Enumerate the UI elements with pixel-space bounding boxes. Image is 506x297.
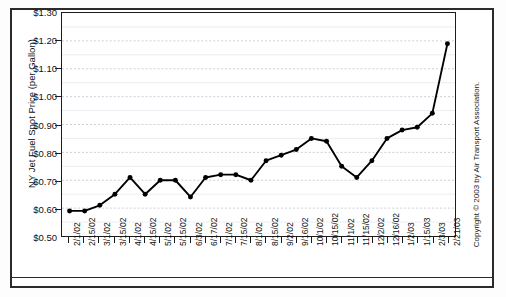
y-axis-tick (55, 153, 61, 154)
x-axis-label: 12/2/02 (376, 218, 386, 246)
x-axis-tick (387, 237, 388, 243)
y-axis-label: $1.00 (33, 91, 57, 102)
y-axis-tick (55, 181, 61, 182)
x-axis-label: 3/1/02 (102, 222, 112, 246)
x-axis-tick (129, 237, 130, 243)
x-axis-tick (357, 237, 358, 243)
y-axis-label: $0.60 (33, 203, 57, 214)
x-axis-label: 2/21/03 (452, 218, 462, 246)
x-axis-tick (448, 237, 449, 243)
plot-area (61, 12, 456, 237)
y-axis-label: $0.80 (33, 147, 57, 158)
jet-fuel-price-figure: NY Jet Fuel Spot Price (per Gallon) Copy… (0, 0, 506, 297)
x-axis-label: 7/1/02 (224, 222, 234, 246)
x-axis-label: 6/17/02 (209, 218, 219, 246)
x-axis-label: 3/15/02 (118, 218, 128, 246)
x-axis-label: 4/1/02 (133, 222, 143, 246)
x-axis-tick (83, 237, 84, 243)
x-axis-tick (235, 237, 236, 243)
x-axis-tick (205, 237, 206, 243)
x-axis-tick (68, 237, 69, 243)
y-axis-label: $0.90 (33, 119, 57, 130)
x-axis-tick (433, 237, 434, 243)
x-axis-label: 2/1/02 (72, 222, 82, 246)
x-axis-label: 12/16/02 (391, 213, 401, 246)
x-axis-tick (220, 237, 221, 243)
x-axis-tick (174, 237, 175, 243)
x-axis-tick (265, 237, 266, 243)
x-axis-label: 5/15/02 (178, 218, 188, 246)
x-axis-label: 8/1/02 (254, 222, 264, 246)
x-axis-label: 2/3/03 (437, 222, 447, 246)
y-axis-tick (55, 125, 61, 126)
x-axis-tick (326, 237, 327, 243)
x-axis-label: 2/15/02 (87, 218, 97, 246)
x-axis-tick (159, 237, 160, 243)
x-axis-label: 9/2/02 (285, 222, 295, 246)
x-axis-label: 1/15/03 (422, 218, 432, 246)
copyright-notice: Copyright © 2003 by Air Transport Associ… (472, 40, 481, 290)
y-axis-tick (55, 209, 61, 210)
y-axis-tick (55, 40, 61, 41)
x-axis-label: 9/16/02 (300, 218, 310, 246)
x-axis-label: 5/1/02 (163, 222, 173, 246)
x-axis-label: 7/15/02 (239, 218, 249, 246)
x-axis-label: 4/15/02 (148, 218, 158, 246)
y-axis-label: $1.30 (33, 7, 57, 18)
y-axis-label: $0.70 (33, 175, 57, 186)
x-axis-label: 1/2/03 (406, 222, 416, 246)
x-axis-label: 11/1/02 (346, 218, 356, 246)
y-axis-tick (55, 68, 61, 69)
x-axis-tick (311, 237, 312, 243)
x-axis-label: 8/15/02 (270, 218, 280, 246)
x-axis-label: 6/3/02 (194, 222, 204, 246)
x-axis-tick (144, 237, 145, 243)
x-axis-label: 11/15/02 (361, 214, 371, 246)
x-axis-tick (417, 237, 418, 243)
y-axis-label: $0.50 (33, 232, 57, 243)
x-axis-label: 10/15/02 (330, 213, 340, 246)
bottom-rule (12, 277, 492, 278)
x-axis-tick (296, 237, 297, 243)
x-axis-tick (250, 237, 251, 243)
price-line-series (62, 13, 455, 236)
x-axis-tick (402, 237, 403, 243)
x-axis-tick (114, 237, 115, 243)
x-axis-tick (281, 237, 282, 243)
x-axis-label: 10/1/02 (315, 218, 325, 246)
x-axis-tick (98, 237, 99, 243)
y-axis-label: $1.10 (33, 63, 57, 74)
x-axis-tick (341, 237, 342, 243)
x-axis-tick (190, 237, 191, 243)
y-axis-label: $1.20 (33, 35, 57, 46)
x-axis-tick (372, 237, 373, 243)
y-axis-tick (55, 96, 61, 97)
